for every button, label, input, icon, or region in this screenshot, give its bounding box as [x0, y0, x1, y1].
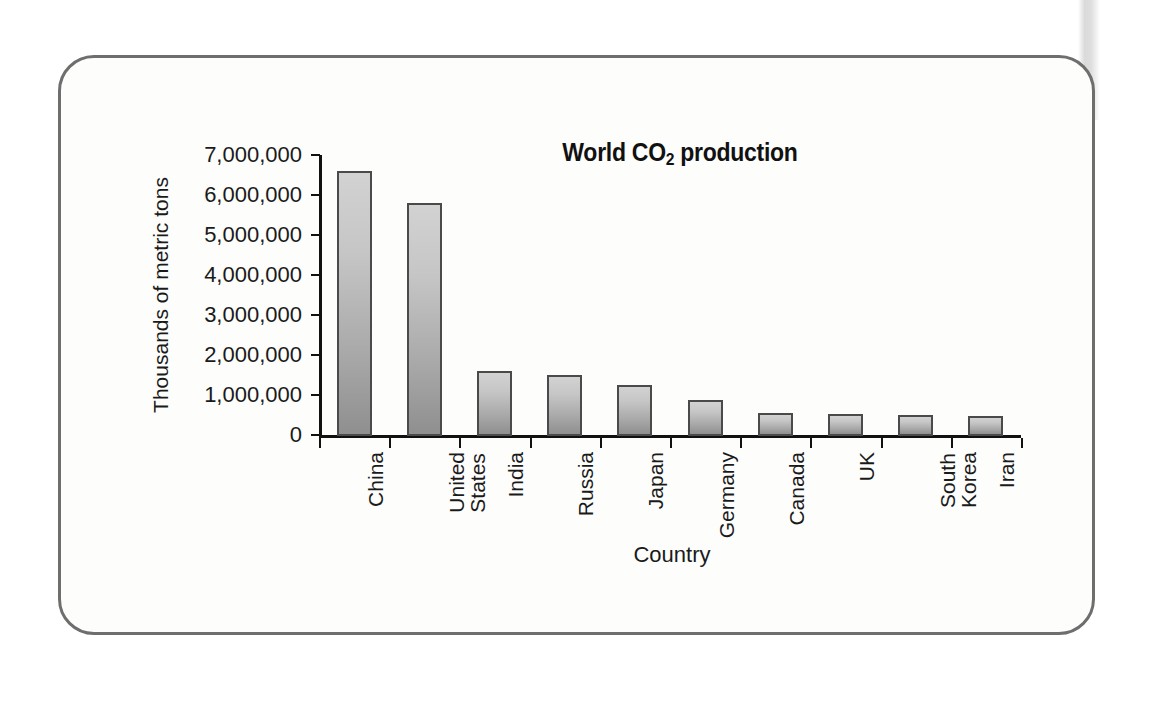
x-axis-category-label-text: Iran [996, 452, 1017, 488]
x-axis-category-label-line: Russia [575, 452, 596, 516]
bar [968, 416, 1003, 436]
y-axis-tick-mark [311, 354, 320, 356]
x-axis-category-label-line: UK [856, 452, 877, 481]
bar [407, 203, 442, 436]
x-axis-tick-mark [319, 438, 321, 448]
y-axis-tick-label: 4,000,000 [172, 262, 302, 288]
bar [617, 385, 652, 436]
bar [898, 415, 933, 436]
y-axis-tick-label: 3,000,000 [172, 302, 302, 328]
bar [547, 375, 582, 436]
chart-title-subscript: 2 [666, 150, 674, 169]
y-axis-tick-label: 2,000,000 [172, 342, 302, 368]
x-axis-tick-mark [530, 438, 532, 448]
y-axis-tick-label: 7,000,000 [172, 142, 302, 168]
x-axis-category-label-line: South [937, 452, 958, 508]
x-axis-label: Country [572, 542, 772, 568]
y-axis-tick-mark [311, 394, 320, 396]
chart-title: World CO2 production [487, 138, 873, 167]
x-axis-tick-mark [951, 438, 953, 448]
x-axis-category-label-line: Germany [716, 452, 737, 538]
y-axis-tick-label: 0 [172, 422, 302, 448]
x-axis-tick-mark [1021, 438, 1023, 448]
x-axis-category-label-line: China [365, 452, 386, 507]
chart-title-prefix: World CO [562, 138, 665, 166]
bar [477, 371, 512, 436]
x-axis-category-label-text: Russia [575, 452, 596, 516]
x-axis-category-label-line: Korea [959, 452, 980, 508]
y-axis-tick-labels: 01,000,0002,000,0003,000,0004,000,0005,0… [172, 0, 302, 705]
x-axis-tick-mark [740, 438, 742, 448]
bar [688, 400, 723, 436]
x-axis-category-label-text: China [365, 452, 386, 507]
y-axis-tick-mark [311, 434, 320, 436]
x-axis-category-label-text: Germany [716, 452, 737, 538]
x-axis-tick-mark [600, 438, 602, 448]
y-axis-tick-mark [311, 194, 320, 196]
bar-chart: World CO2 production Thousands of metric… [0, 0, 1156, 705]
y-axis-tick-label: 1,000,000 [172, 382, 302, 408]
x-axis-tick-mark [670, 438, 672, 448]
y-axis-tick-mark [311, 314, 320, 316]
y-axis-tick-mark [311, 154, 320, 156]
x-axis-tick-mark [810, 438, 812, 448]
chart-title-suffix: production [674, 138, 797, 166]
bar [337, 171, 372, 436]
y-axis-tick-label: 6,000,000 [172, 182, 302, 208]
x-axis-category-label-line: Japan [645, 452, 666, 509]
x-axis-tick-mark [459, 438, 461, 448]
x-axis-category-label-text: UnitedStates [446, 452, 489, 513]
x-axis-category-label-text: UK [856, 452, 877, 481]
y-axis-tick-mark [311, 234, 320, 236]
y-axis-label: Thousands of metric tons [149, 177, 173, 413]
x-axis-category-label-line: India [505, 452, 526, 498]
x-axis-category-label-text: SouthKorea [937, 452, 980, 508]
x-axis-tick-mark [389, 438, 391, 448]
x-axis-category-label-line: Canada [786, 452, 807, 526]
x-axis-category-label-text: Canada [786, 452, 807, 526]
x-axis-category-label-text: India [505, 452, 526, 498]
bar [758, 413, 793, 436]
x-axis-category-label-text: Japan [645, 452, 666, 509]
x-axis-category-label-line: States [467, 452, 488, 513]
x-axis-category-label-line: Iran [996, 452, 1017, 488]
y-axis-tick-mark [311, 274, 320, 276]
bar [828, 414, 863, 436]
y-axis-tick-label: 5,000,000 [172, 222, 302, 248]
x-axis-tick-mark [881, 438, 883, 448]
x-axis-category-label-line: United [446, 452, 467, 513]
